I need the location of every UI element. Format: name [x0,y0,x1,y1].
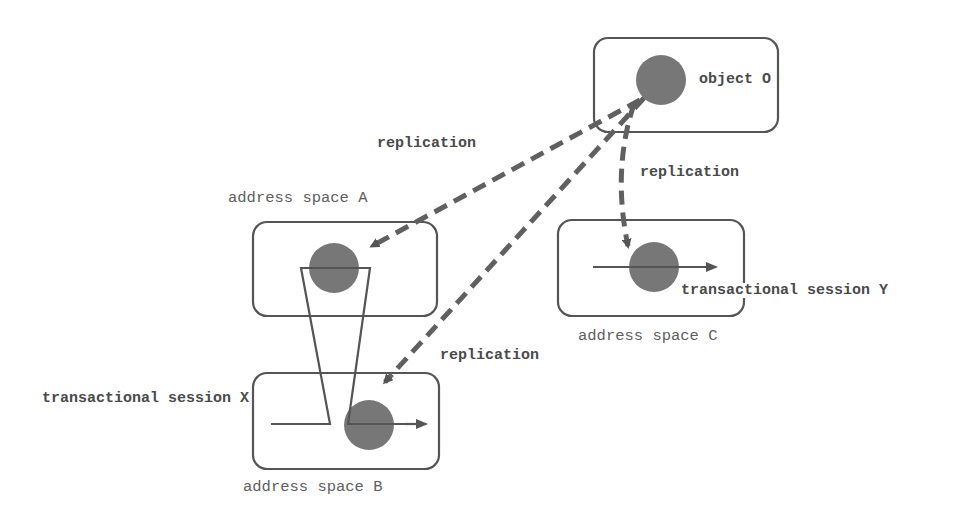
replication-label-to-c: replication [640,165,739,180]
object-o-node [636,55,686,105]
address-space-c-label: address space C [578,329,718,345]
session-x-path [271,268,425,424]
object-o-label: object O [697,72,773,87]
replication-diagram: object O replication replication replica… [0,0,972,520]
session-x-label: transactional session X [40,391,251,406]
address-space-b-label: address space B [243,480,383,496]
address-space-c-box [558,220,744,316]
address-space-a-label: address space A [228,191,368,207]
session-y-label: transactional session Y [679,283,890,298]
replication-label-to-b: replication [440,348,539,363]
replication-arrow-to-a [372,100,640,246]
replication-arrow-to-c [621,104,634,246]
address-space-b-box [253,373,439,469]
replication-label-to-a: replication [377,136,476,151]
diagram-canvas [0,0,972,520]
